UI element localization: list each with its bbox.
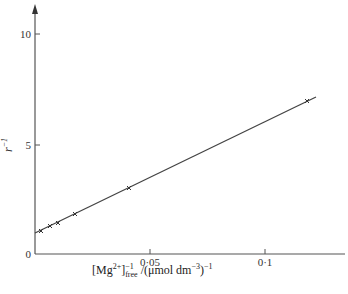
y-axis-label: r−1 <box>0 138 15 152</box>
chart: 10 5 0 0·05 0·1 r−1 <box>0 0 348 294</box>
y-tick-label-5: 5 <box>26 139 32 151</box>
svg-text:r−1: r−1 <box>0 138 15 152</box>
y-tick-label-0: 0 <box>26 248 32 260</box>
x-tick-label-01: 0·1 <box>258 256 273 268</box>
fit-line <box>35 97 316 233</box>
y-tick-label-10: 10 <box>20 28 32 40</box>
x-axis-label: [Mg2+]−1free /(μmol dm−3)−1 <box>92 262 212 279</box>
y-axis-arrow-icon <box>32 4 38 14</box>
